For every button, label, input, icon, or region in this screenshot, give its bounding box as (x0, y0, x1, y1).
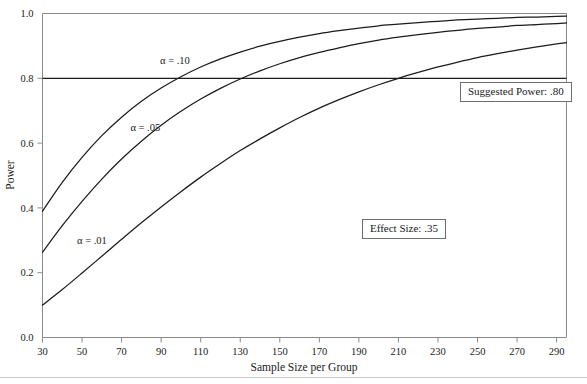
x-tick-label: 50 (77, 346, 88, 357)
y-axis-ticks (38, 78, 43, 272)
x-tick-label: 30 (37, 346, 48, 357)
x-axis-title: Sample Size per Group (251, 361, 358, 374)
curve-label: α = .05 (130, 122, 160, 133)
curve-labels: α = .10α = .05α = .01 (77, 55, 190, 246)
plot-frame (43, 14, 567, 338)
y-tick-label: 0.8 (20, 73, 33, 84)
x-tick-label: 90 (156, 346, 167, 357)
x-axis-tick-labels: 30507090110130150170190210230250270290 (37, 346, 564, 357)
power-curve-alpha-1 (43, 16, 567, 211)
x-tick-label: 290 (549, 346, 565, 357)
bottom-divider (0, 377, 587, 378)
x-tick-label: 210 (391, 346, 407, 357)
curve-label: α = .10 (160, 55, 190, 66)
y-axis-tick-labels: 0.00.20.40.60.81.0 (20, 8, 34, 343)
power-curves (43, 16, 567, 305)
y-axis-title: Power (4, 160, 16, 190)
x-tick-label: 230 (430, 346, 446, 357)
x-axis-ticks (43, 338, 557, 343)
y-tick-label: 0.6 (20, 138, 33, 149)
x-tick-label: 170 (311, 346, 327, 357)
x-tick-label: 150 (272, 346, 288, 357)
x-tick-label: 130 (232, 346, 248, 357)
x-tick-label: 270 (509, 346, 525, 357)
power-curve-figure: 30507090110130150170190210230250270290 0… (0, 0, 587, 384)
curve-label: α = .01 (77, 235, 107, 246)
suggested-power-annotation: Suggested Power: .80 (460, 82, 572, 102)
y-tick-label: 1.0 (20, 8, 33, 19)
y-tick-label: 0.4 (20, 203, 34, 214)
y-tick-label: 0.2 (20, 267, 33, 278)
x-tick-label: 250 (470, 346, 486, 357)
x-tick-label: 110 (193, 346, 208, 357)
x-tick-label: 190 (351, 346, 367, 357)
y-tick-label: 0.0 (20, 332, 33, 343)
power-curve-alpha-05 (43, 23, 567, 252)
effect-size-annotation: Effect Size: .35 (362, 219, 446, 239)
x-tick-label: 70 (116, 346, 127, 357)
